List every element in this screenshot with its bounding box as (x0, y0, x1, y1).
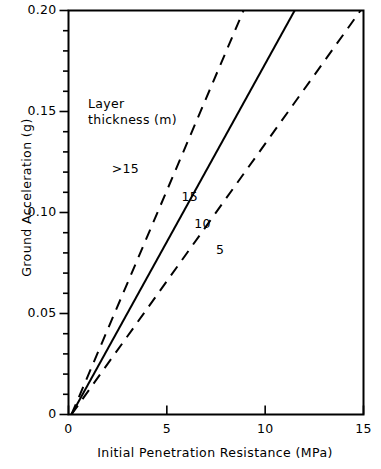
series-label-5: 5 (216, 242, 224, 258)
series-label-15: 15 (182, 189, 199, 205)
series-line-15 (71, 11, 243, 415)
series-label-10: 10 (194, 216, 211, 232)
series-label-15: >15 (112, 161, 139, 177)
x-tick-label: 5 (152, 421, 182, 436)
series-line-15 (71, 11, 294, 415)
y-tick-label: 0.10 (11, 204, 57, 219)
data-series-group (71, 11, 360, 415)
plot-area (0, 0, 381, 469)
legend-title-line2: thickness (m) (88, 112, 177, 128)
x-tick-label: 15 (349, 421, 379, 436)
y-tick-label: 0.05 (11, 305, 57, 320)
y-axis-title: Ground Acceleration (g) (19, 88, 34, 308)
legend-title-line1: Layer (88, 96, 177, 112)
x-axis-title: Initial Penetration Resistance (MPa) (60, 445, 370, 460)
legend-title: Layer thickness (m) (88, 96, 177, 129)
y-tick-label: 0 (11, 406, 57, 421)
chart-figure: Ground Acceleration (g) Initial Penetrat… (0, 0, 381, 469)
x-tick-label: 10 (250, 421, 280, 436)
series-line-5 (71, 11, 360, 415)
x-tick-label: 0 (54, 421, 84, 436)
y-tick-label: 0.15 (11, 103, 57, 118)
y-tick-label: 0.20 (11, 2, 57, 17)
